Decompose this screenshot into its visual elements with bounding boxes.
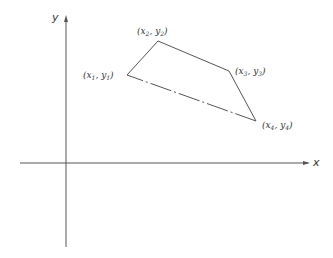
edge-3-4 bbox=[229, 71, 256, 121]
edge-1-2 bbox=[127, 41, 158, 75]
vertex-label-4: (x4, y4) bbox=[262, 121, 293, 131]
edge-4-1-dashed bbox=[127, 75, 256, 121]
y-axis-arrow-icon bbox=[64, 15, 68, 22]
vertex-label-1: (x1, y1) bbox=[83, 71, 114, 81]
x-axis-label: x bbox=[313, 157, 320, 168]
edge-2-3 bbox=[158, 41, 229, 71]
y-axis-label: y bbox=[52, 12, 59, 23]
vertex-label-3: (x3, y3) bbox=[235, 67, 266, 77]
vertex-label-2: (x2, y2) bbox=[137, 27, 168, 37]
diagram-canvas: y x (x1, y1) (x2, y2) (x3, y3) (x4, y4) bbox=[0, 0, 333, 258]
x-axis-arrow-icon bbox=[303, 161, 310, 165]
